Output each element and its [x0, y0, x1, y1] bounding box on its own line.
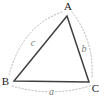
side-label-c: c: [31, 37, 36, 48]
triangle-svg: A B C a b c: [0, 0, 105, 108]
side-label-b: b: [82, 43, 87, 54]
triangle-outline: [14, 16, 89, 82]
triangle-figure: A B C a b c: [0, 0, 105, 108]
arc-side-c: [9, 12, 62, 75]
vertex-label-c: C: [92, 82, 99, 94]
vertex-label-a: A: [64, 0, 72, 12]
vertex-label-b: B: [2, 75, 9, 87]
side-label-a: a: [49, 86, 54, 97]
